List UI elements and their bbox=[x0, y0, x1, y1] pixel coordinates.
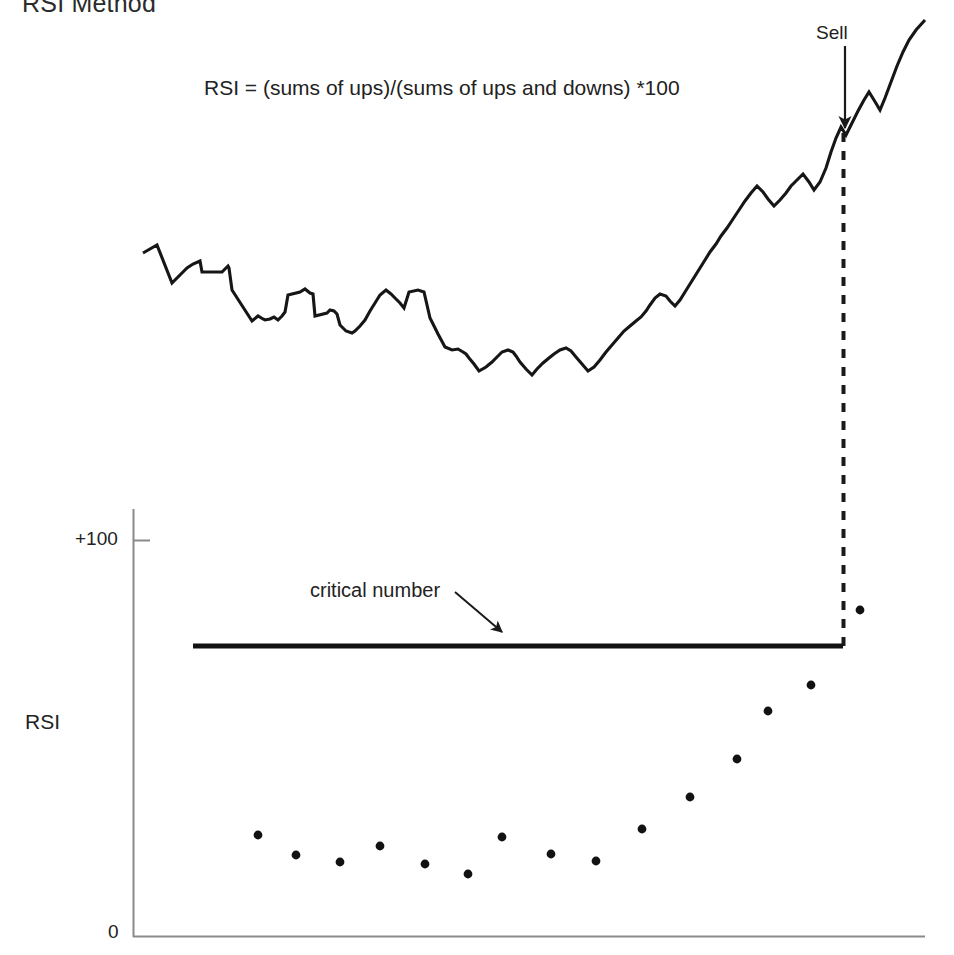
rsi-data-point bbox=[638, 825, 647, 834]
critical-number-arrow bbox=[455, 592, 502, 632]
rsi-data-point bbox=[376, 842, 385, 851]
rsi-data-point bbox=[498, 833, 507, 842]
rsi-data-point bbox=[733, 755, 742, 764]
rsi-data-point bbox=[592, 857, 601, 866]
rsi-data-point bbox=[421, 860, 430, 869]
rsi-data-point bbox=[856, 606, 865, 615]
rsi-data-point bbox=[464, 870, 473, 879]
rsi-data-point bbox=[292, 851, 301, 860]
rsi-data-point bbox=[254, 831, 263, 840]
price-line-series bbox=[143, 20, 925, 375]
rsi-data-point bbox=[336, 858, 345, 867]
rsi-data-point bbox=[686, 793, 695, 802]
rsi-data-point bbox=[764, 707, 773, 716]
rsi-data-point bbox=[547, 850, 556, 859]
rsi-method-figure: RSI Method RSI = (sums of ups)/(sums of … bbox=[0, 0, 954, 955]
rsi-data-point bbox=[807, 681, 816, 690]
figure-canvas bbox=[0, 0, 954, 955]
